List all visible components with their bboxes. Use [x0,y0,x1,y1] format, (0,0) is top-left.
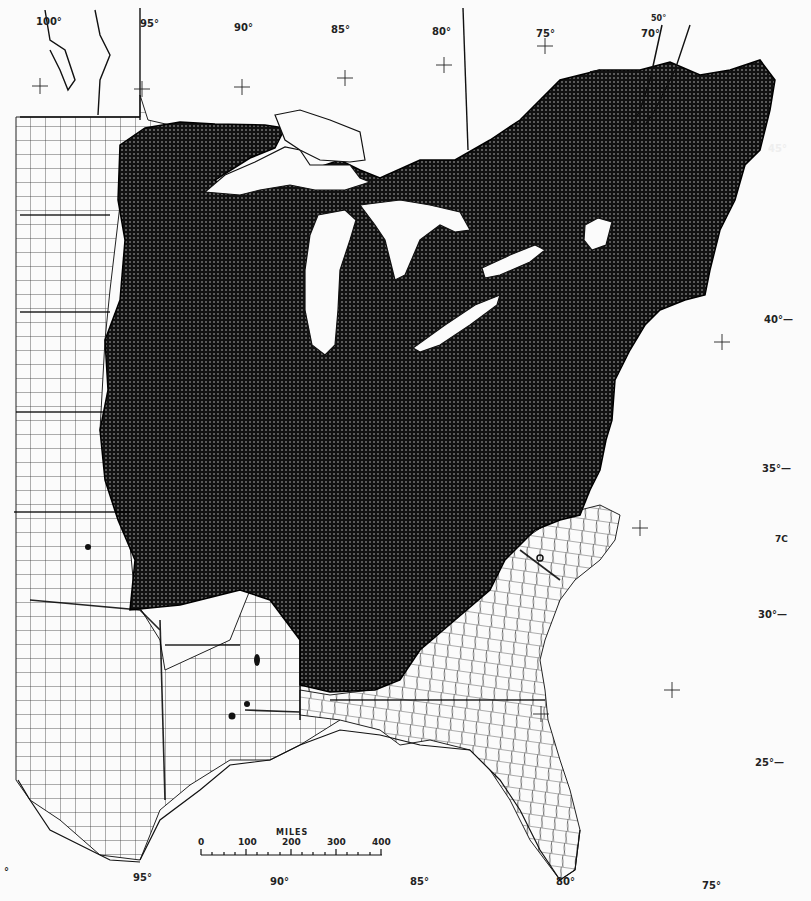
longitude-label: 95° [140,18,159,29]
longitude-label: 80° [432,26,451,37]
longitude-label: 95° [133,872,152,883]
scale-tick-label: 300 [327,837,346,847]
longitude-label: 85° [331,24,350,35]
longitude-label: 90° [234,22,253,33]
range-map: 100° 95° 90° 85° 80° 75° 70° 50° 95° 90°… [0,0,811,901]
longitude-label: 75° [536,28,555,39]
map-canvas [0,0,811,901]
longitude-label: 100° [36,16,62,27]
scale-tick-label: 100 [238,837,257,847]
latitude-label: 45° [768,143,787,154]
latitude-label: 7C [775,534,788,544]
longitude-label: ° [4,866,9,877]
scale-tick-label: 0 [198,837,204,847]
longitude-label: 75° [702,880,721,891]
scale-tick-label: 200 [282,837,301,847]
longitude-label: 90° [270,876,289,887]
latitude-label: 40°— [764,314,793,325]
latitude-label: 50° [651,14,666,23]
longitude-label: 85° [410,876,429,887]
longitude-label: 80° [556,876,575,887]
scale-bar [201,849,382,855]
species-range [100,60,775,692]
latitude-label: 30°— [758,609,787,620]
latitude-label: 35°— [762,463,791,474]
scale-title: MILES [276,828,308,837]
latitude-label: 25°— [755,757,784,768]
scale-tick-label: 400 [372,837,391,847]
longitude-label: 70° [641,28,660,39]
